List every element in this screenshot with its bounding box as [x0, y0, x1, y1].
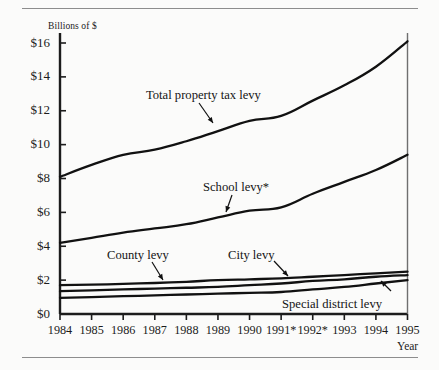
y-tick-label-4: $4 [12, 238, 50, 254]
chart-figure: Billions of $ $16$14$12$10$8$6$4$2$0 198… [0, 0, 439, 370]
label-total-property-tax-levy: Total property tax levy [146, 88, 261, 103]
leader-arrowhead-total-property-tax-levy [208, 117, 213, 123]
label-school-levy: School levy* [203, 180, 269, 195]
label-special-district-levy: Special district levy [282, 297, 382, 312]
series-line-total-property-tax-levy [60, 41, 408, 177]
y-tick-label-14: $14 [12, 68, 50, 84]
y-tick-label-10: $10 [12, 136, 50, 152]
y-tick-label-0: $0 [12, 306, 50, 322]
x-tick-label-1995: 1995 [388, 323, 428, 338]
label-city-levy: City levy [228, 248, 275, 263]
y-tick-label-2: $2 [12, 272, 50, 288]
x-axis-title: Year [397, 340, 418, 352]
y-tick-label-12: $12 [12, 102, 50, 118]
series-line-school-levy [60, 155, 408, 243]
y-tick-label-8: $8 [12, 170, 50, 186]
y-tick-label-6: $6 [12, 204, 50, 220]
y-tick-label-16: $16 [12, 35, 50, 51]
leader-arrowhead-school-levy [226, 206, 231, 212]
axes-group [60, 33, 408, 320]
label-county-levy: County levy [107, 248, 169, 263]
